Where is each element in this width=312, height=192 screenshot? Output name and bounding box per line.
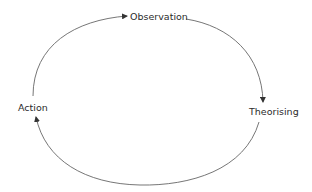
arrow-action-to-observation [33,16,127,96]
cycle-arrows [0,0,312,192]
node-observation: Observation [130,12,188,22]
arrow-observation-to-theorising [186,19,263,102]
cycle-diagram: Observation Theorising Action [0,0,312,192]
arrow-theorising-to-action [36,117,259,185]
node-action: Action [18,103,48,113]
node-theorising: Theorising [249,107,299,117]
